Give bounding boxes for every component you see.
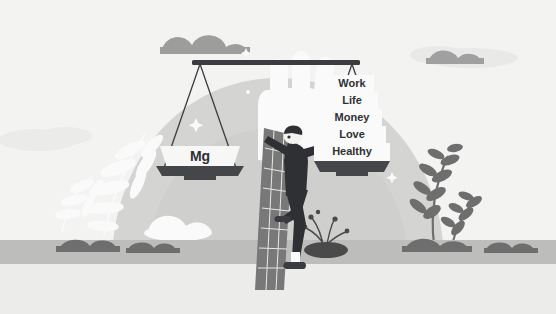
priority-label-work: Work [338,77,366,89]
person-shoe [283,262,306,269]
priority-item-life: Life [326,92,378,109]
priority-item-love: Love [318,126,386,143]
cloud-far-left-2 [40,127,92,145]
scale-pan-left: Mg [156,146,244,180]
scale-beam [192,60,360,65]
illustration-canvas: Mg Work Life Money [0,0,556,314]
left-pan-foot [184,176,216,180]
sparkle-dot [246,90,250,94]
person-sock [291,252,300,262]
left-pan-base [156,166,244,176]
cloud-dark-right-base [426,58,484,64]
priority-item-money: Money [322,109,382,126]
cloud-white-left-base [144,225,212,241]
right-pan-base [314,161,390,172]
priority-label-healthy: Healthy [332,145,373,157]
scene-svg: Mg Work Life Money [0,0,556,314]
person-eye [287,135,290,138]
priority-label-money: Money [335,111,371,123]
priority-label-life: Life [342,94,362,106]
cloud-dark-left-base [160,47,250,54]
right-pan-foot [336,172,368,176]
priority-item-healthy: Healthy [314,143,390,161]
person-shoe-back [274,216,291,222]
priority-label-love: Love [339,128,365,140]
priority-item-work: Work [330,75,374,92]
magnesium-weight-label: Mg [190,148,210,164]
